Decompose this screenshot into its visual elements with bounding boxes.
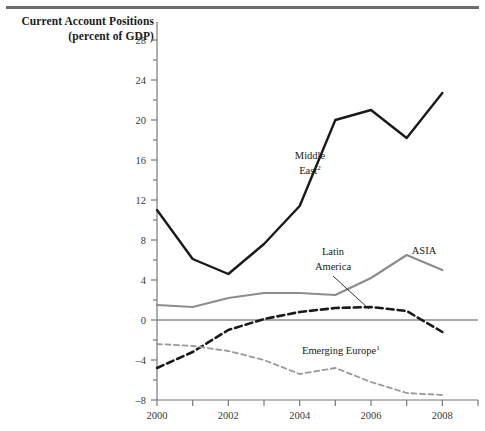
- y-axis-tick-label: –4: [135, 355, 147, 366]
- figure-root: Current Account Positions (percent of GD…: [0, 0, 485, 431]
- x-axis-tick-label: 2004: [289, 410, 311, 421]
- series-label-emerging-europe: Emerging Europe1: [302, 344, 380, 356]
- y-axis-tick-label: 12: [136, 195, 147, 206]
- series-label-latin-america-line1: Latin: [322, 246, 345, 257]
- series-line-latin-america: [157, 307, 442, 368]
- y-axis-tick-label: –8: [135, 395, 147, 406]
- series-label-asia: ASIA: [412, 245, 437, 256]
- x-axis-tick-label: 2000: [147, 410, 168, 421]
- series-line-middle-east: [157, 93, 442, 274]
- series-line-emerging-europe: [157, 344, 442, 395]
- series-label-latin-america-line2: America: [315, 261, 351, 272]
- series-label-middle-east-line1: Middle: [295, 150, 326, 161]
- y-axis-tick-label: 0: [141, 315, 146, 326]
- y-axis-tick-label: 4: [141, 275, 147, 286]
- y-axis-tick-label: 16: [136, 155, 147, 166]
- x-axis-tick-label: 2002: [218, 410, 239, 421]
- y-axis-tick-label: 28: [136, 35, 147, 46]
- y-axis-ticks: –8–40481216202428: [135, 35, 158, 406]
- y-axis-tick-label: 8: [141, 235, 146, 246]
- x-axis-tick-label: 2008: [432, 410, 453, 421]
- line-chart: –8–40481216202428 20002002200420062008 M…: [0, 0, 485, 431]
- x-axis-ticks: 20002002200420062008: [147, 400, 479, 421]
- y-axis-tick-label: 20: [136, 115, 147, 126]
- series-label-middle-east-line2: East2: [299, 164, 321, 176]
- y-axis-tick-label: 24: [136, 75, 147, 86]
- data-series-group: [157, 93, 442, 395]
- x-axis-tick-label: 2006: [361, 410, 382, 421]
